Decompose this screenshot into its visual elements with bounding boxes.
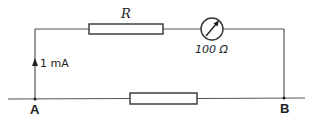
current-arrow-icon — [32, 58, 38, 66]
wire-bottom-left — [8, 99, 130, 100]
bottom-branch — [8, 93, 305, 104]
resistor-bottom-body — [130, 93, 197, 104]
meter-resistance-label: 100 Ω — [195, 43, 228, 56]
node-b-label: B — [280, 101, 289, 116]
wire-bottom-right — [197, 98, 305, 99]
circuit-diagram: R 100 Ω 1 mA A B — [0, 0, 311, 118]
resistor-r: R — [89, 6, 163, 34]
junction-b-dot — [283, 97, 286, 100]
current-indicator: 1 mA — [32, 57, 69, 70]
resistor-r-label: R — [120, 6, 131, 21]
resistor-r-body — [89, 24, 163, 34]
junction-a-dot — [34, 98, 37, 101]
meter: 100 Ω — [195, 18, 228, 56]
top-branch — [35, 29, 284, 99]
current-label: 1 mA — [40, 57, 69, 70]
node-a-label: A — [30, 102, 40, 117]
